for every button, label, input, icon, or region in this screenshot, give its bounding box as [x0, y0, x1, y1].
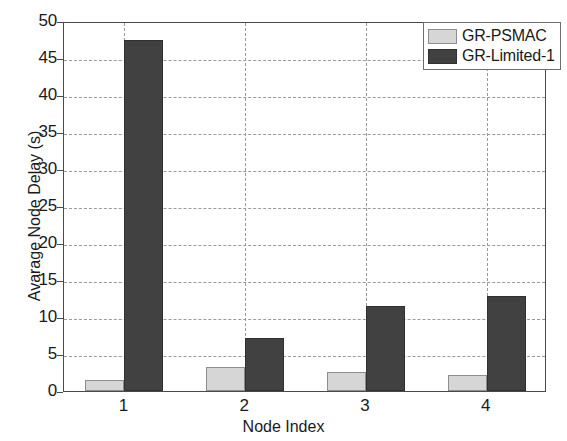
plot-area — [63, 22, 546, 392]
y-tick-mark — [57, 392, 63, 393]
legend-label: GR-Limited-1 — [462, 47, 555, 65]
x-tick-label: 4 — [456, 396, 516, 416]
bar-gr-psmac-node-2 — [206, 367, 245, 391]
bar-gr-limited-1-node-1 — [124, 40, 163, 391]
bars-layer — [64, 23, 545, 391]
bar-gr-limited-1-node-4 — [487, 296, 526, 391]
bar-gr-limited-1-node-2 — [245, 338, 284, 391]
bar-chart-figure: 05101520253035404550 Avarage Node Delay … — [0, 0, 567, 441]
bar-gr-psmac-node-4 — [448, 375, 487, 391]
legend-item-gr-psmac: GR-PSMAC — [428, 26, 555, 46]
x-tick-label: 3 — [335, 396, 395, 416]
legend-item-gr-limited-1: GR-Limited-1 — [428, 46, 555, 66]
x-tick-label: 2 — [214, 396, 274, 416]
y-tick-label: 0 — [0, 381, 57, 401]
bar-gr-limited-1-node-3 — [366, 306, 405, 391]
legend-label: GR-PSMAC — [462, 27, 547, 45]
y-axis-label: Avarage Node Delay (s) — [26, 51, 44, 381]
legend-swatch-icon — [428, 49, 457, 64]
x-tick-label: 1 — [93, 396, 153, 416]
chart-legend: GR-PSMACGR-Limited-1 — [423, 22, 561, 70]
x-axis-label: Node Index — [0, 418, 567, 436]
bar-gr-psmac-node-3 — [327, 372, 366, 391]
y-tick-label: 50 — [0, 11, 57, 31]
legend-swatch-icon — [428, 29, 457, 44]
bar-gr-psmac-node-1 — [85, 380, 124, 391]
